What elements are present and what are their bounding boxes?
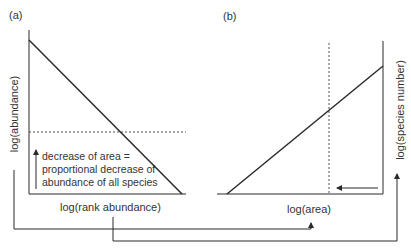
species-area-line [227,66,383,194]
diagram-canvas: (a) (b) decrease of area = proportional … [0,0,411,248]
panel-b-axes [217,41,383,194]
x-axis-label-a: log(rank abundance) [60,201,161,213]
annotation-line-1: decrease of area = [42,150,158,163]
panel-a-label: (a) [9,9,22,21]
y-axis-label-b: log(species number) [394,55,406,165]
panel-b-label: (b) [223,10,236,22]
y-axis-label-a: log(abundance) [8,73,20,155]
annotation-line-3: abundance of all species [42,176,158,189]
annotation-text: decrease of area = proportional decrease… [42,150,158,189]
annotation-line-2: proportional decrease of [42,163,158,176]
x-axis-label-b: log(area) [287,203,331,215]
